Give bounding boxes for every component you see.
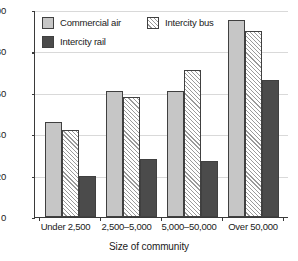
- x-category-label-2500-5000: 2,500–5,000: [95, 222, 158, 232]
- bar-commercial-air-2500-5000: [106, 91, 123, 217]
- bar-intercity-rail-over-50000: [262, 80, 279, 217]
- bar-group-5000-50000: [165, 70, 220, 217]
- legend-item-intercity-rail: Intercity rail: [42, 35, 147, 49]
- dark-gray-square-icon: [42, 36, 54, 48]
- light-gray-square-icon: [42, 17, 54, 29]
- bar-group-2500-5000: [104, 91, 159, 217]
- y-tick-label-0: 0: [0, 213, 6, 223]
- y-tick-mark-0: [32, 218, 36, 219]
- y-tick-mark-80: [32, 52, 36, 53]
- gridline-100: [35, 11, 288, 12]
- bar-intercity-bus-5000-50000: [184, 70, 201, 217]
- x-tick-mark-0: [39, 217, 40, 221]
- x-tick-mark-3: [222, 217, 223, 221]
- bar-intercity-rail-5000-50000: [201, 161, 218, 217]
- bar-commercial-air-5000-50000: [167, 91, 184, 217]
- bar-intercity-bus-2500-5000: [123, 97, 140, 217]
- bar-intercity-rail-2500-5000: [140, 159, 157, 217]
- y-tick-label-80: 80: [0, 47, 6, 57]
- legend-label-intercity-rail: Intercity rail: [60, 37, 106, 47]
- bar-intercity-bus-over-50000: [245, 31, 262, 217]
- bar-intercity-bus-under-2500: [62, 130, 79, 217]
- legend-item-intercity-bus: Intercity bus: [147, 16, 242, 30]
- chart-legend: Commercial air Intercity bus Intercity r…: [42, 16, 242, 54]
- x-category-label-over-50000: Over 50,000: [220, 222, 286, 232]
- y-tick-mark-100: [32, 11, 36, 12]
- legend-label-commercial-air: Commercial air: [60, 18, 121, 28]
- y-tick-mark-60: [32, 94, 36, 95]
- hatched-square-icon: [147, 17, 159, 29]
- y-tick-mark-20: [32, 177, 36, 178]
- y-tick-mark-40: [32, 135, 36, 136]
- bar-chart: 100 80 60 40 20 0: [0, 0, 298, 261]
- bar-group-under-2500: [43, 122, 98, 217]
- x-category-label-under-2500: Under 2,500: [34, 222, 97, 232]
- y-tick-label-20: 20: [0, 172, 6, 182]
- y-tick-label-40: 40: [0, 130, 6, 140]
- legend-item-commercial-air: Commercial air: [42, 16, 147, 30]
- y-tick-label-60: 60: [0, 89, 6, 99]
- x-axis-title: Size of community: [0, 241, 298, 252]
- x-category-label-5000-50000: 5,000–50,000: [156, 222, 222, 232]
- bar-commercial-air-under-2500: [45, 122, 62, 217]
- x-tick-mark-4: [283, 217, 284, 221]
- y-tick-label-100: 100: [0, 6, 6, 16]
- legend-label-intercity-bus: Intercity bus: [165, 18, 214, 28]
- bar-intercity-rail-under-2500: [79, 176, 96, 217]
